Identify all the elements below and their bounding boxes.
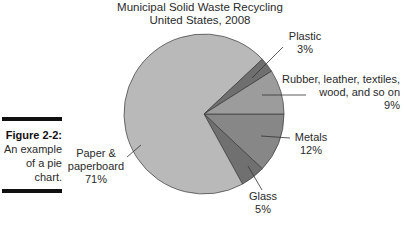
- label-glass: Glass 5%: [243, 190, 283, 216]
- pie-slices: [124, 34, 284, 194]
- label-paper-line-2: paperboard: [66, 160, 126, 173]
- label-rubber: Rubber, leather, textiles, wood, and so …: [280, 73, 400, 112]
- label-rubber-line-1: Rubber, leather, textiles,: [280, 73, 400, 86]
- label-paper: Paper & paperboard 71%: [66, 147, 126, 186]
- label-paper-pct: 71%: [66, 173, 126, 186]
- label-rubber-pct: 9%: [280, 99, 400, 112]
- label-plastic: Plastic 3%: [283, 30, 327, 56]
- label-plastic-pct: 3%: [283, 43, 327, 56]
- label-glass-pct: 5%: [243, 203, 283, 216]
- pie-chart: [0, 0, 404, 225]
- label-paper-line-1: Paper &: [66, 147, 126, 160]
- label-rubber-line-2: wood, and so on: [280, 86, 400, 99]
- label-metals-name: Metals: [291, 131, 331, 144]
- label-glass-name: Glass: [243, 190, 283, 203]
- label-metals: Metals 12%: [291, 131, 331, 157]
- label-metals-pct: 12%: [291, 144, 331, 157]
- label-plastic-name: Plastic: [283, 30, 327, 43]
